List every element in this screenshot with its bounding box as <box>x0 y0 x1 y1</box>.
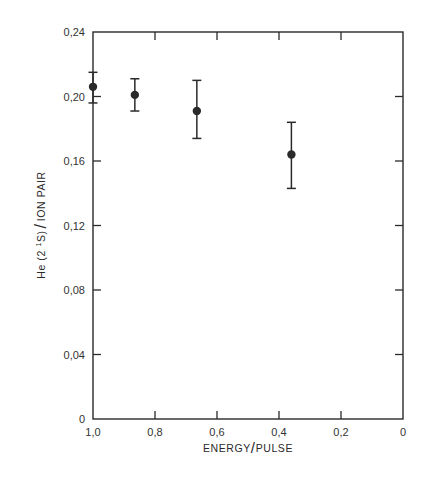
y-tick-label: 0,24 <box>64 26 85 38</box>
x-tick-label: 1,0 <box>85 426 100 438</box>
y-tick-label: 0,08 <box>64 284 85 296</box>
x-tick-label: 0,6 <box>209 426 224 438</box>
plot-frame <box>93 32 403 419</box>
data-point <box>287 122 296 188</box>
filled-circle-marker <box>131 91 139 99</box>
data-point <box>89 72 98 103</box>
data-point <box>192 80 201 138</box>
data-point <box>130 79 139 111</box>
y-axis-label: He (2 1S)/ION PAIR <box>32 171 49 279</box>
y-tick-label: 0,12 <box>64 220 85 232</box>
filled-circle-marker <box>287 150 295 158</box>
filled-circle-marker <box>89 83 97 91</box>
y-tick-label: 0,20 <box>64 91 85 103</box>
x-tick-labels: 1,00,80,60,40,20 <box>85 426 406 438</box>
x-tick-label: 0,4 <box>271 426 286 438</box>
y-tick-labels: 00,040,080,120,160,200,24 <box>64 26 85 425</box>
x-axis-label: ENERGY/PULSE <box>203 439 293 456</box>
y-tick-label: 0,04 <box>64 349 85 361</box>
data-series <box>89 72 296 188</box>
y-tick-label: 0,16 <box>64 155 85 167</box>
axis-ticks <box>93 32 403 419</box>
x-tick-label: 0,8 <box>147 426 162 438</box>
filled-circle-marker <box>193 107 201 115</box>
x-tick-label: 0 <box>400 426 406 438</box>
x-tick-label: 0,2 <box>333 426 348 438</box>
plot-border <box>93 32 403 419</box>
y-tick-label: 0 <box>79 413 85 425</box>
chart: 1,00,80,60,40,20 00,040,080,120,160,200,… <box>0 0 433 478</box>
